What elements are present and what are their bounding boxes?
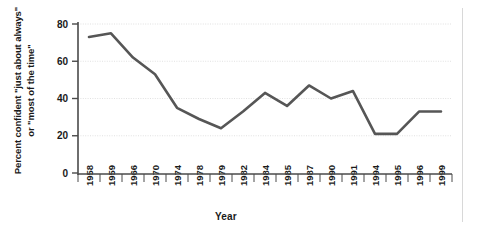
x-tick-label: 1974 [172,164,183,186]
data-series-line [89,33,441,134]
x-tick-label: 1979 [216,165,227,186]
x-axis-ticks: 1958195919661970197419781979198219841985… [78,164,452,186]
x-tick-label: 1995 [392,164,403,186]
x-tick-label: 1982 [238,165,249,186]
chart-figure: Percent confident "just about always" or… [0,0,483,233]
y-tick-label: 20 [57,130,69,141]
y-axis-ticks: 020406080 [57,19,78,179]
x-axis-label: Year [215,211,237,222]
x-tick-label: 1984 [260,164,271,186]
x-tick-label: 1996 [414,165,425,186]
x-tick-label: 1959 [106,165,117,186]
y-tick-label: 60 [57,56,69,67]
y-tick-label: 80 [57,19,69,30]
x-tick-label: 1966 [128,165,139,186]
plot-area: 020406080 195819591966197019741978197919… [0,0,483,233]
x-tick-label: 1987 [304,165,315,186]
x-tick-label: 1985 [282,164,293,186]
x-tick-label: 1991 [348,164,359,186]
x-tick-label: 1970 [150,165,161,186]
x-tick-label: 1978 [194,165,205,186]
x-tick-label: 1994 [370,164,381,186]
x-tick-label: 1958 [84,165,95,186]
y-tick-label: 0 [62,168,68,179]
x-tick-label: 1990 [326,165,337,186]
gridlines [78,24,452,136]
y-tick-label: 40 [57,93,69,104]
x-tick-label: 1999 [436,165,447,186]
